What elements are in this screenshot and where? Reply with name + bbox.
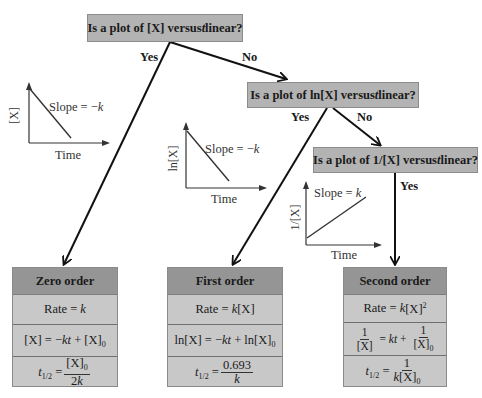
question-second-order: Is a plot of 1/[X] versus t linear?	[313, 147, 478, 173]
rate-law: Rate = k[X]	[168, 295, 282, 325]
slope-text: Slope =	[314, 186, 356, 200]
question-first-order: Is a plot of ln[X] versus t linear?	[247, 82, 419, 108]
arrow-q2-yes	[233, 108, 327, 264]
slope-text: Slope = −	[205, 142, 254, 156]
integrated-eq: ln[X] = −kt + ln[X]0	[175, 333, 276, 349]
slope-var: k	[254, 142, 260, 156]
half-life: t1/2 = 0.693k	[168, 357, 282, 388]
half-life-denominator: k	[234, 372, 240, 386]
rate-concentration: [X]2	[405, 301, 426, 317]
plot1-xlabel: Time	[55, 148, 81, 163]
rate-law: Rate = k	[13, 295, 117, 325]
plot2-ylabel: ln[X]	[166, 146, 181, 172]
plot2-xlabel: Time	[211, 192, 237, 207]
label-q2-yes: Yes	[291, 110, 309, 125]
inverse-initial-concentration: 1[X]0	[411, 324, 435, 355]
label-q1-no: No	[242, 50, 257, 65]
result-title: Second order	[344, 268, 446, 295]
result-zero-order: Zero order Rate = k [X] = −kt + [X]0 t1/…	[12, 267, 118, 387]
half-life-fraction: 1k[X]0	[391, 357, 422, 388]
arrow-q1-no	[170, 42, 286, 79]
rate-law: Rate = k[X]2	[344, 295, 446, 323]
rate-prefix: Rate =	[195, 302, 228, 317]
label-q1-yes: Yes	[140, 50, 158, 65]
plot3-ylabel: 1/[X]	[288, 205, 303, 231]
integrated-rate-law: ln[X] = −kt + ln[X]0	[168, 325, 282, 357]
rate-prefix: Rate =	[363, 301, 396, 316]
label-q2-no: No	[357, 110, 372, 125]
half-life: t1/2 = 1k[X]0	[344, 356, 446, 388]
result-title: First order	[168, 268, 282, 295]
plot3-slope: Slope = k	[314, 186, 361, 201]
question-zero-order: Is a plot of [X] versus t linear?	[87, 14, 243, 42]
slope-var: k	[98, 100, 104, 114]
plot1-ylabel: [X]	[7, 107, 22, 124]
half-life-fraction: 0.693k	[221, 359, 253, 386]
inverse-concentration: 1[X]	[355, 326, 375, 353]
half-life-fraction: [X]02k	[64, 357, 89, 388]
integrated-rate-law: [X] = −kt + [X]0	[13, 325, 117, 357]
half-life-lhs: t1/2 =	[366, 364, 390, 380]
slope-text: Slope = −	[49, 100, 98, 114]
rate-concentration: [X]	[237, 302, 254, 317]
rate-constant: k	[80, 302, 86, 317]
plot1-slope: Slope = −k	[49, 100, 103, 115]
question-text: linear?	[378, 88, 416, 103]
question-text: linear?	[440, 153, 478, 168]
half-life: t1/2 = [X]02k	[13, 357, 117, 388]
half-life-lhs: t1/2 =	[195, 365, 219, 381]
plot3-xlabel: Time	[331, 248, 357, 263]
plot2-slope: Slope = −k	[205, 142, 259, 157]
question-text: Is a plot of 1/[X] versus	[313, 153, 437, 168]
half-life-numerator: 0.693	[221, 359, 253, 373]
result-title: Zero order	[13, 268, 117, 295]
half-life-lhs: t1/2 =	[38, 365, 62, 381]
question-text: Is a plot of [X] versus	[87, 21, 201, 36]
question-text: Is a plot of ln[X] versus	[250, 88, 375, 103]
result-second-order: Second order Rate = k[X]2 1[X] = kt + 1[…	[343, 267, 447, 387]
label-q3-yes: Yes	[400, 179, 418, 194]
result-first-order: First order Rate = k[X] ln[X] = −kt + ln…	[167, 267, 283, 387]
rate-prefix: Rate =	[44, 302, 77, 317]
integrated-eq: [X] = −kt + [X]0	[24, 333, 105, 349]
integrated-rate-law: 1[X] = kt + 1[X]0	[344, 323, 446, 356]
question-text: linear?	[205, 21, 243, 36]
integrated-eq: = kt +	[377, 333, 410, 345]
slope-var: k	[356, 186, 362, 200]
